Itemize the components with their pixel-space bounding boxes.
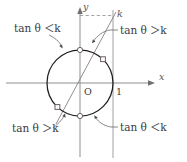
annotation-lower-left: tan θ ＞k <box>12 122 59 134</box>
line-y-equals-kx <box>56 12 116 124</box>
annotation-upper-left: tan θ ＜k <box>14 22 61 34</box>
leader-lower-left-arrow <box>62 114 65 118</box>
y-axis-label: y <box>82 1 89 12</box>
marker-ray-circle-upper <box>101 57 106 62</box>
slope-k-label: k <box>117 8 123 19</box>
annotation-lower-right: tan θ ＜k <box>120 121 167 133</box>
x-axis-label: x <box>159 71 165 82</box>
y-axis-arrowhead <box>77 7 82 14</box>
marker-ray-circle-lower <box>55 105 60 110</box>
unit-label: 1 <box>116 86 122 97</box>
origin-label: O <box>84 86 92 97</box>
x-axis-arrowhead <box>148 80 155 85</box>
annotation-upper-right: tan θ ＞k <box>120 24 167 36</box>
unit-circle-figure: y x O 1 k tan θ ＜k tan θ ＞k tan θ ＞k tan… <box>0 0 187 162</box>
marker-bottom-of-circle <box>77 113 82 118</box>
leader-lines-group <box>49 30 118 128</box>
leader-upper-left <box>49 35 62 46</box>
leader-upper-right-arrow <box>92 39 96 43</box>
leader-lower-right-b <box>96 118 112 128</box>
marker-top-of-circle <box>77 47 82 52</box>
figure-canvas: y x O 1 k tan θ ＜k tan θ ＞k tan θ ＞k tan… <box>0 0 187 162</box>
